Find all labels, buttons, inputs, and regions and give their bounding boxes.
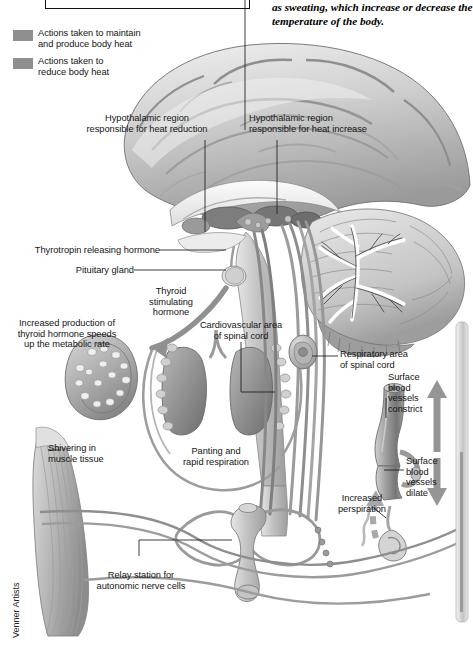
artist-credit: Venner Artists [11,582,21,638]
figure-canvas: as sweating, which increase or decrease … [0,0,473,646]
label-pituitary-gland: Pituitary gland [40,265,134,276]
figure-caption: as sweating, which increase or decrease … [272,0,472,28]
label-surface-vessels-constrict: Surface blood vessels constrict [388,372,422,414]
label-thyroid-stimulating-hormone: Thyroid stimulating hormone [133,286,209,318]
label-relay-station: Relay station for autonomic nerve cells [80,570,202,591]
label-surface-vessels-dilate: Surface blood vessels dilate [406,456,438,498]
label-panting-respiration: Panting and rapid respiration [160,446,272,467]
label-respiratory-area: Respiratory area of spinal cord [340,349,408,370]
cerebellum [301,209,464,358]
label-thyrotropin-releasing-hormone: Thyrotropin releasing hormone [8,245,160,256]
label-shivering-muscle: Shivering in muscle tissue [48,443,104,464]
label-cardiovascular-area: Cardiovascular area of spinal cord [168,320,314,341]
label-heat-reduction: Hypothalamic region responsible for heat… [67,113,227,134]
top-callout-box [45,0,250,9]
legend-swatch-maintain-heat [13,30,33,41]
label-heat-increase: Hypothalamic region responsible for heat… [249,113,367,134]
label-thyroid-metabolic-effect: Increased production of thyroid hormone … [0,318,134,350]
legend-label-maintain-heat: Actions taken to maintain and produce bo… [38,28,141,49]
thermometer-bar [456,322,468,622]
label-increased-perspiration: Increased perspiration [324,493,400,514]
legend-label-reduce-heat: Actions taken to reduce body heat [38,56,109,77]
legend-swatch-reduce-heat [13,58,33,69]
